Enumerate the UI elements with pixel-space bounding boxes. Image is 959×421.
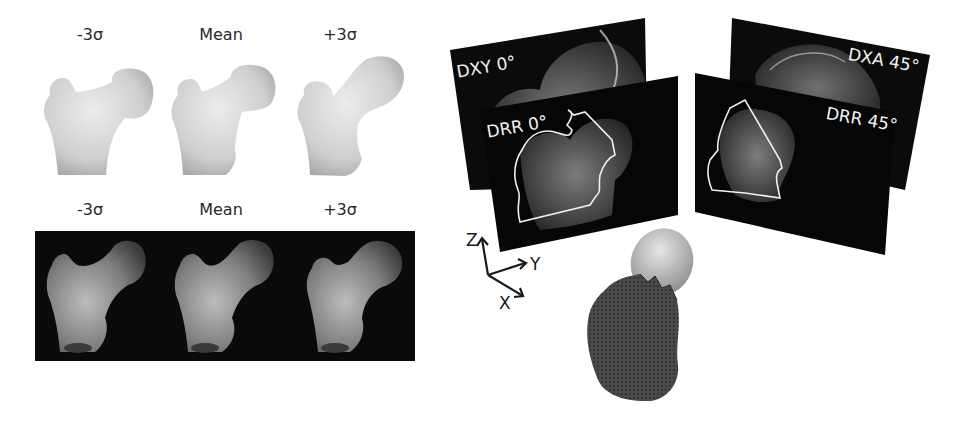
femur-top-plus-3sigma xyxy=(297,56,403,176)
label-plus-3sigma-bottom: +3σ xyxy=(323,200,357,219)
axis-label-x: X xyxy=(499,293,511,313)
femur-top-minus-3sigma xyxy=(44,69,153,176)
label-mean-bottom: Mean xyxy=(199,200,243,219)
axis-label-z: Z xyxy=(466,230,478,250)
femur-mesh-surface xyxy=(587,274,679,401)
femur-3d-mesh xyxy=(587,219,703,401)
label-minus-3sigma-bottom: -3σ xyxy=(77,200,103,219)
femur-top-mean xyxy=(171,65,275,175)
axis-label-y: Y xyxy=(530,254,540,274)
